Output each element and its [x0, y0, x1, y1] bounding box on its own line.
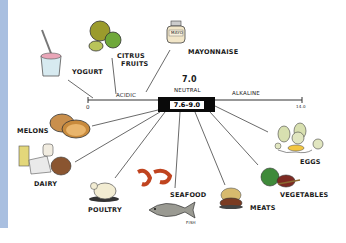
scale-neutral-label: NEUTRAL	[174, 87, 201, 93]
food-label-citrus-line1: CITRUS	[117, 52, 145, 60]
food-label-vegetables: VEGETABLES	[280, 191, 328, 199]
meat-icon	[218, 186, 244, 210]
dairy-icon	[17, 142, 73, 178]
poultry-icon	[88, 180, 120, 202]
food-label-poultry: POULTRY	[88, 206, 122, 214]
fish-icon	[147, 198, 197, 222]
vegetables-icon	[258, 166, 302, 188]
ph-range-value: 7.6–9.0	[170, 101, 204, 109]
food-label-eggs: EGGS	[300, 158, 321, 166]
scale-center-value: 7.0	[182, 75, 197, 84]
citrus-fruits-icon	[86, 20, 122, 54]
mayo-jar-label: MAYO	[171, 30, 183, 35]
shrimp-icon	[134, 166, 174, 190]
yogurt-cup-icon	[36, 28, 66, 78]
scale-acidic-label: ACIDIC	[116, 92, 136, 98]
food-label-dairy: DAIRY	[34, 180, 57, 188]
food-label-meats: MEATS	[250, 204, 276, 212]
food-label-fish: FISH	[186, 220, 196, 225]
food-label-mayonnaise: MAYONNAISE	[188, 48, 238, 56]
eggs-icon	[272, 122, 328, 154]
food-label-citrus-line2: FRUITS	[121, 60, 148, 68]
melon-icon	[48, 112, 92, 140]
scale-right-end: 14.0	[296, 104, 306, 109]
food-label-melons: MELONS	[17, 127, 49, 135]
scale-left-end: 0	[86, 104, 90, 110]
scale-alkaline-label: ALKALINE	[232, 90, 260, 96]
food-label-yogurt: YOGURT	[72, 68, 103, 76]
